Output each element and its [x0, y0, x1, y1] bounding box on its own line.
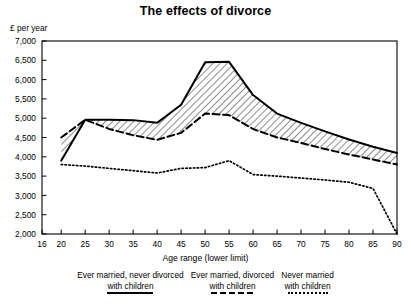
y-tick-label: 2,000 [15, 229, 36, 239]
y-tick-label: 3,500 [15, 171, 36, 181]
legend-label-line1: Ever married, never divorced [77, 270, 184, 281]
hatched-band [61, 62, 397, 165]
x-tick-label: 30 [104, 239, 114, 249]
y-tick-label: 5,500 [15, 94, 36, 104]
chart-container: The effects of divorce £ per year 2,0002… [0, 0, 411, 307]
x-tick-label: 80 [344, 239, 354, 249]
legend-item-never-married: Never married with children [281, 270, 334, 298]
legend-label-line2: with children [107, 281, 153, 292]
x-tick-label: 50 [200, 239, 210, 249]
legend-label-line1: Never married [281, 270, 334, 281]
x-axis-label: Age range (lower limit) [0, 253, 411, 263]
y-tick-label: 3,000 [15, 191, 36, 201]
y-tick-label: 7,000 [15, 36, 36, 46]
y-tick-label: 6,000 [15, 75, 36, 85]
legend-line-sample-dashed [211, 292, 253, 298]
legend-item-ever-married-divorced: Ever married, divorced with children [191, 270, 274, 298]
x-tick-label: 45 [176, 239, 186, 249]
plot-area: 2,0002,5003,0003,5004,0004,5005,0005,500… [0, 0, 411, 250]
legend-line-sample-dotted [288, 292, 328, 298]
y-tick-label: 2,500 [15, 210, 36, 220]
legend-label-line1: Ever married, divorced [191, 270, 274, 281]
legend-item-ever-married-never-divorced: Ever married, never divorced with childr… [77, 270, 184, 298]
x-tick-label: 25 [81, 239, 91, 249]
x-tick-label: 75 [320, 239, 330, 249]
x-tick-label: 85 [368, 239, 378, 249]
y-tick-label: 4,000 [15, 152, 36, 162]
x-tick-label: 60 [248, 239, 258, 249]
y-tick-label: 4,500 [15, 133, 36, 143]
y-tick-label: 5,000 [15, 113, 36, 123]
x-tick-label: 55 [224, 239, 234, 249]
x-tick-label: 16 [37, 239, 47, 249]
x-tick-label: 20 [57, 239, 67, 249]
legend-label-line2: with children [209, 281, 255, 292]
x-tick-label: 65 [272, 239, 282, 249]
series-line-2 [61, 161, 397, 234]
x-tick-label: 35 [128, 239, 138, 249]
y-tick-label: 6,500 [15, 55, 36, 65]
x-tick-label: 90 [392, 239, 402, 249]
x-tick-label: 70 [296, 239, 306, 249]
legend-label-line2: with children [284, 281, 330, 292]
x-tick-label: 40 [152, 239, 162, 249]
chart-legend: Ever married, never divorced with childr… [0, 270, 411, 298]
legend-line-sample-solid [107, 292, 153, 298]
